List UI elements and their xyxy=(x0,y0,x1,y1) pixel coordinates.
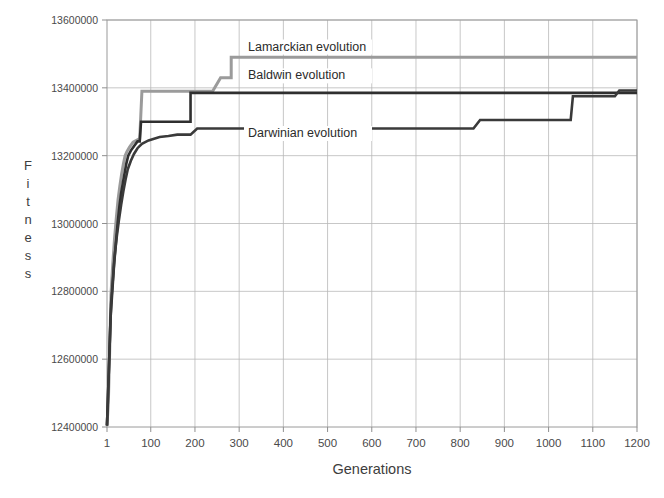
x-tick-label: 700 xyxy=(406,437,425,449)
annotation-darwinian: Darwinian evolution xyxy=(248,126,357,140)
y-axis-tick-labels: 1240000012600000128000001300000013200000… xyxy=(51,14,98,433)
series-annotations: Lamarckian evolutionBaldwin evolutionDar… xyxy=(244,40,372,141)
x-tick-label: 400 xyxy=(274,437,293,449)
y-tick-label: 13600000 xyxy=(51,14,98,26)
y-tick-label: 12800000 xyxy=(51,285,98,297)
x-tick-label: 600 xyxy=(362,437,381,449)
annotation-lamarckian: Lamarckian evolution xyxy=(248,40,366,54)
x-tick-label: 800 xyxy=(451,437,470,449)
y-tick-label: 13000000 xyxy=(51,218,98,230)
x-tick-label: 200 xyxy=(185,437,204,449)
y-axis-title-letter: t xyxy=(26,194,30,209)
y-axis-title-letter: i xyxy=(27,176,30,191)
fitness-evolution-chart: 1240000012600000128000001300000013200000… xyxy=(0,0,664,498)
x-tick-label: 1200 xyxy=(624,437,650,449)
x-tick-label: 300 xyxy=(230,437,249,449)
x-tick-label: 1000 xyxy=(536,437,562,449)
y-tick-label: 13400000 xyxy=(51,82,98,94)
x-axis-tick-labels: 1100200300400500600700800900100011001200 xyxy=(104,437,650,449)
y-axis-title-letter: s xyxy=(25,248,32,263)
y-axis-title-letter: F xyxy=(24,158,32,173)
annotation-baldwin: Baldwin evolution xyxy=(248,68,345,82)
x-tick-label: 900 xyxy=(495,437,514,449)
y-axis-title-letter: s xyxy=(25,266,32,281)
chart-canvas: 1240000012600000128000001300000013200000… xyxy=(0,0,664,498)
x-axis-title: Generations xyxy=(333,461,412,477)
y-axis-title-letter: e xyxy=(24,230,31,245)
x-tick-label: 500 xyxy=(318,437,337,449)
y-tick-label: 13200000 xyxy=(51,150,98,162)
x-tick-label: 1 xyxy=(104,437,110,449)
y-axis-title-letter: n xyxy=(24,212,31,227)
y-tick-label: 12600000 xyxy=(51,353,98,365)
x-tick-label: 100 xyxy=(141,437,160,449)
x-tick-label: 1100 xyxy=(580,437,605,449)
y-tick-label: 12400000 xyxy=(51,421,98,433)
